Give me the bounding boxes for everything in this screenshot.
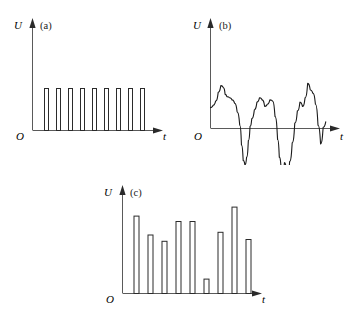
chart-a-svg: U (a) O t — [0, 0, 180, 160]
x-axis-label-a: t — [163, 130, 167, 142]
analog-waveform-b — [211, 83, 326, 165]
figure-panel-c: U (c) O t — [90, 172, 280, 319]
y-axis-arrow-b — [207, 18, 213, 28]
pulse-bar — [232, 207, 237, 293]
origin-label-a: O — [16, 130, 24, 142]
pulse-bar — [246, 240, 251, 294]
panel-tag-c: (c) — [130, 187, 142, 199]
pulse-group-a — [45, 89, 145, 131]
axes-b — [207, 18, 340, 132]
x-axis-label-b: t — [340, 130, 344, 142]
pulse-bar — [93, 89, 97, 131]
figure-panel-a: U (a) O t — [0, 0, 180, 160]
pulse-bar — [162, 241, 167, 293]
pulse-bar — [190, 222, 195, 294]
pulse-bar — [134, 216, 139, 293]
y-axis-label-b: U — [193, 19, 202, 31]
pulse-bar — [117, 89, 121, 131]
pulse-bar — [57, 89, 61, 131]
pulse-group-c — [134, 207, 251, 293]
panel-tag-a: (a) — [40, 20, 52, 32]
x-axis-label-c: t — [262, 293, 266, 305]
chart-b-svg: U (b) O t — [180, 0, 353, 165]
pulse-bar — [218, 232, 223, 293]
x-axis-arrow-b — [330, 125, 340, 131]
origin-label-b: O — [194, 130, 202, 142]
y-axis-label-a: U — [14, 19, 23, 31]
pulse-bar — [141, 89, 145, 131]
x-axis-arrow-c — [252, 290, 262, 296]
pulse-bar — [81, 89, 85, 131]
origin-label-c: O — [106, 293, 114, 305]
y-axis-arrow-a — [29, 18, 35, 28]
chart-c-svg: U (c) O t — [90, 172, 280, 319]
figure-panel-b: U (b) O t — [180, 0, 353, 165]
pulse-bar — [45, 89, 49, 131]
y-axis-arrow-c — [119, 185, 125, 195]
pulse-bar — [105, 89, 109, 131]
pulse-bar — [148, 235, 153, 294]
pulse-bar — [69, 89, 73, 131]
y-axis-label-c: U — [104, 186, 113, 198]
x-axis-arrow-a — [153, 127, 163, 133]
panel-tag-b: (b) — [219, 20, 232, 32]
pulse-bar — [129, 89, 133, 131]
pulse-bar — [204, 279, 209, 293]
pulse-bar — [176, 222, 181, 294]
